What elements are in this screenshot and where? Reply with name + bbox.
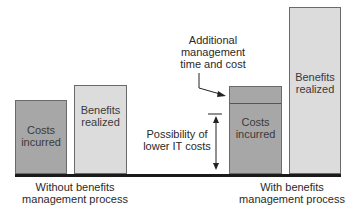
arrows-overlay (0, 0, 354, 214)
callout-arrow-icon (199, 73, 226, 97)
double-arrow-icon (208, 114, 222, 170)
